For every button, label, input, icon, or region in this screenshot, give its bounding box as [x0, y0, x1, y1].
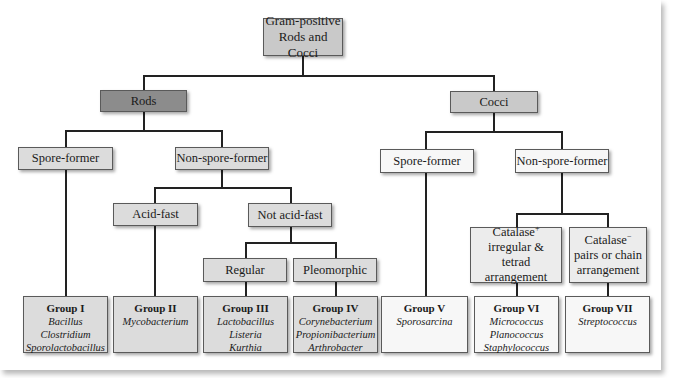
group-title: Group VII: [566, 302, 649, 315]
connector: [290, 187, 292, 203]
connector: [425, 131, 427, 149]
genus: Planococcus: [475, 328, 558, 341]
connector: [607, 283, 609, 296]
connector: [143, 112, 145, 130]
connector: [245, 242, 247, 258]
connector: [245, 242, 336, 244]
cocci-non-spore-former-node: Non-spore-former: [515, 149, 609, 173]
group-title: Group III: [204, 302, 287, 315]
genus: Staphylococcus: [475, 341, 558, 354]
connector: [290, 227, 292, 242]
group-1-box: Group I Bacillus Clostridium Sporolactob…: [23, 296, 108, 353]
connector: [154, 226, 156, 296]
catalase-positive-node: Catalase+ irregular & tetrad arrangement: [470, 227, 562, 283]
genus: Clostridium: [24, 328, 107, 341]
diagram-page: Gram-positive Rods and Cocci Rods Spore-…: [0, 0, 661, 370]
plus-sign: +: [535, 224, 540, 233]
connector: [245, 282, 247, 296]
cocci-spore-former-node: Spore-former: [380, 149, 474, 173]
connector: [65, 130, 222, 132]
rods-non-spore-former-label: Non-spore-former: [177, 151, 268, 166]
connector: [221, 130, 223, 147]
genus: Lactobacillus: [204, 315, 287, 328]
connector: [335, 242, 337, 258]
connector: [65, 170, 67, 296]
connector: [143, 75, 494, 77]
group-4-box: Group IV Corynebacterium Propionibacteri…: [293, 296, 378, 353]
rods-node: Rods: [100, 90, 187, 112]
genus: Corynebacterium: [294, 315, 377, 328]
pleomorphic-node: Pleomorphic: [293, 258, 377, 282]
connector: [516, 213, 608, 215]
genus: Sporosarcina: [382, 315, 467, 328]
genus: Mycobacterium: [114, 315, 197, 328]
rods-non-spore-former-node: Non-spore-former: [175, 147, 269, 170]
root-label: Gram-positive Rods and Cocci: [264, 13, 342, 61]
connector: [561, 131, 563, 149]
cocci-node: Cocci: [450, 91, 538, 113]
connector: [493, 113, 495, 131]
minus-sign: −: [627, 231, 632, 240]
catalase-negative-node: Catalase− pairs or chain arrangement: [569, 227, 647, 283]
rods-spore-former-label: Spore-former: [32, 151, 99, 166]
group-2-box: Group II Mycobacterium: [113, 296, 198, 353]
not-acid-fast-label: Not acid-fast: [258, 208, 323, 223]
group-7-box: Group VII Streptococcus: [565, 296, 650, 353]
root-node: Gram-positive Rods and Cocci: [263, 18, 343, 56]
group-title: Group IV: [294, 302, 377, 315]
acid-fast-node: Acid-fast: [113, 203, 198, 226]
group-5-box: Group V Sporosarcina: [381, 296, 468, 353]
group-title: Group II: [114, 302, 197, 315]
connector: [143, 75, 145, 90]
genus: Arthrobacter: [294, 341, 377, 354]
connector: [561, 173, 563, 213]
genus: Bacillus: [24, 315, 107, 328]
cocci-label: Cocci: [479, 95, 508, 110]
group-title: Group I: [24, 302, 107, 315]
acid-fast-label: Acid-fast: [132, 207, 179, 222]
genus: Sporolactobacillus: [24, 341, 107, 354]
connector: [154, 187, 156, 203]
not-acid-fast-node: Not acid-fast: [248, 203, 332, 227]
connector: [154, 187, 291, 189]
genus: Streptococcus: [566, 315, 649, 328]
connector: [425, 131, 562, 133]
group-title: Group V: [382, 302, 467, 315]
group-6-box: Group VI Micrococcus Planococcus Staphyl…: [474, 296, 559, 353]
regular-node: Regular: [203, 258, 287, 282]
regular-label: Regular: [225, 263, 265, 278]
genus: Propionibacterium: [294, 328, 377, 341]
catalase-negative-desc: pairs or chain arrangement: [570, 248, 646, 278]
connector: [425, 173, 427, 296]
rods-label: Rods: [131, 94, 157, 109]
connector: [493, 75, 495, 91]
cocci-non-spore-former-label: Non-spore-former: [517, 154, 608, 169]
genus: Kurthia: [204, 341, 287, 354]
cocci-spore-former-label: Spore-former: [393, 154, 460, 169]
group-3-box: Group III Lactobacillus Listeria Kurthia: [203, 296, 288, 353]
connector: [221, 170, 223, 187]
connector: [65, 130, 67, 147]
connector: [607, 213, 609, 227]
group-title: Group VI: [475, 302, 558, 315]
catalase-positive-desc: irregular & tetrad arrangement: [471, 240, 561, 285]
catalase-negative-title: Catalase−: [585, 233, 632, 248]
rods-spore-former-node: Spore-former: [18, 147, 113, 170]
pleomorphic-label: Pleomorphic: [303, 263, 367, 278]
genus: Listeria: [204, 328, 287, 341]
genus: Micrococcus: [475, 315, 558, 328]
catalase-positive-title: Catalase+: [493, 225, 540, 240]
connector: [335, 282, 337, 296]
